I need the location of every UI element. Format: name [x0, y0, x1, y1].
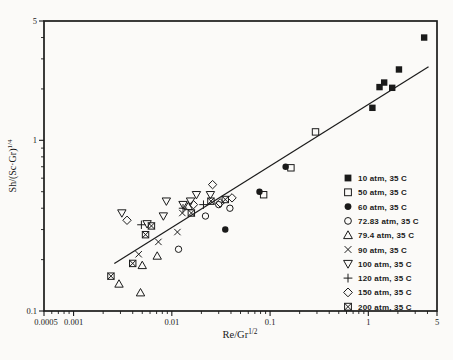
triangle-up-marker [153, 252, 161, 259]
diamond-marker [208, 180, 216, 188]
square-open-marker [345, 189, 352, 196]
triangle-up-marker [115, 280, 123, 287]
circle-open-marker [202, 213, 208, 219]
square-filled-marker [376, 84, 382, 90]
x-axis-title: Re/Gr1/2 [222, 327, 257, 341]
legend-label: 150 atm, 35 C [358, 288, 412, 297]
x-tick-label: 5 [435, 317, 439, 327]
x-tick-label: 0.01 [164, 317, 179, 327]
triangle-down-marker [159, 213, 167, 220]
x-tick-label: 0.001 [64, 317, 83, 327]
square-filled-marker [389, 85, 395, 91]
circle-filled-marker [256, 188, 262, 194]
diamond-marker [228, 194, 236, 202]
x-tick-label: 0.0005 [34, 317, 57, 327]
square-filled-marker [421, 34, 427, 40]
circle-filled-marker [222, 226, 228, 232]
triangle-down-marker [118, 210, 126, 217]
triangle-down-marker [344, 260, 353, 268]
legend-label: 79.4 atm, 35 C [358, 231, 414, 240]
legend-label: 50 atm, 35 C [358, 188, 407, 197]
y-tick-label: 1 [33, 135, 37, 145]
legend-label: 200 atm, 35 C [358, 303, 412, 312]
y-tick-label: 5 [33, 16, 37, 26]
triangle-down-marker [162, 198, 170, 205]
circle-filled-marker [345, 203, 352, 210]
legend-label: 72.83 atm, 35 C [358, 217, 419, 226]
square-filled-marker [396, 66, 402, 72]
triangle-up-marker [344, 231, 353, 239]
x-tick-label: 1 [366, 317, 370, 327]
y-axis-title: Sh/(Sc·Gr)1/4 [6, 139, 19, 192]
scatter-chart: 0.00050.0010.010.1150.115Re/Gr1/2Sh/(Sc·… [0, 0, 453, 360]
circle-open-marker [175, 246, 181, 252]
triangle-up-marker [136, 289, 144, 296]
y-tick-label: 0.1 [26, 306, 37, 316]
square-open-marker [312, 129, 318, 135]
diamond-marker [123, 216, 131, 224]
circle-open-marker [345, 218, 352, 225]
triangle-up-marker [138, 261, 146, 268]
legend-label: 60 atm, 35 C [358, 203, 407, 212]
x-tick-label: 0.1 [265, 317, 276, 327]
figure: 0.00050.0010.010.1150.115Re/Gr1/2Sh/(Sc·… [0, 0, 453, 360]
legend-label: 100 atm, 35 C [358, 260, 412, 269]
circle-filled-marker [282, 164, 288, 170]
square-filled-marker [345, 175, 352, 182]
legend-label: 120 atm, 35 C [358, 274, 412, 283]
diamond-marker [344, 288, 353, 297]
square-filled-marker [369, 105, 375, 111]
square-open-marker [288, 165, 294, 171]
legend-label: 90 atm, 35 C [358, 246, 407, 255]
circle-open-marker [227, 205, 233, 211]
legend-label: 10 atm, 35 C [358, 174, 407, 183]
